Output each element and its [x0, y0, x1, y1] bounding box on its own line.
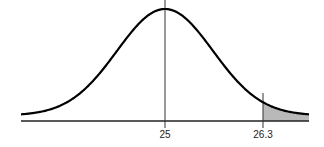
tick-label-mean: 25 — [159, 129, 170, 140]
normal-curve-plot — [0, 0, 324, 147]
tick-label-cutoff: 26.3 — [253, 129, 272, 140]
chart: 25 26.3 — [0, 0, 324, 147]
